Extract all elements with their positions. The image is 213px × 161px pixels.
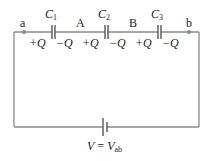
c1-plus-charge: +Q — [29, 37, 46, 49]
node-label-a: a — [20, 17, 25, 29]
node-label-B: B — [129, 17, 137, 29]
c2-plus-charge: +Q — [82, 37, 99, 49]
terminal-a-dot — [22, 30, 26, 34]
terminal-b-dot — [187, 30, 191, 34]
circuit-wires — [0, 0, 213, 161]
node-label-b: b — [186, 17, 192, 29]
c3-minus-charge: −Q — [162, 37, 179, 49]
c3-plus-charge: +Q — [135, 37, 152, 49]
node-label-A: A — [76, 17, 85, 29]
c2-minus-charge: −Q — [109, 37, 126, 49]
capacitor-label-c3: C3 — [151, 8, 163, 22]
capacitor-label-c2: C2 — [98, 8, 110, 22]
c1-minus-charge: −Q — [56, 37, 73, 49]
capacitor-label-c1: C1 — [45, 8, 57, 22]
battery-voltage-label: V = Vab — [87, 140, 122, 154]
